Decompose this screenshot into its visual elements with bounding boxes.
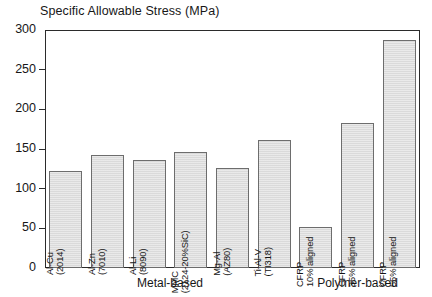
y-axis-tick-label: 300 [15, 22, 36, 36]
bars-container: Al-Cu(2014)Al-Zn(7010)Al-Li(8090)MMC(212… [45, 30, 420, 268]
y-axis-tick-label: 150 [15, 141, 36, 155]
bar: CFRP10% aligned [299, 227, 332, 268]
y-axis-tick-label: 250 [15, 62, 36, 76]
bar-chart: Specific Allowable Stress (MPa) 05010015… [0, 0, 432, 297]
bar-label-line1: Al-Zn [86, 253, 97, 275]
bar-label-line1: Al-Cu [44, 252, 55, 275]
bar: Mg-Al(AZ80) [216, 168, 249, 268]
group-caption-polymer-based: Polymer-based [288, 276, 428, 290]
bar-label-line1: Mg-Al [211, 252, 222, 276]
y-axis-tick-label: 100 [15, 181, 36, 195]
bar-label: Ti-Al-V(TI318) [253, 247, 274, 277]
bar-label: Al-Cu(2014) [45, 249, 66, 276]
y-axis: 050100150200250300 [0, 0, 45, 297]
bar: Al-Li(8090) [133, 160, 166, 268]
bar-label-line2: (TI318) [264, 247, 274, 277]
chart-title: Specific Allowable Stress (MPa) [40, 4, 220, 18]
y-axis-tick-label: 200 [15, 101, 36, 115]
y-axis-tick-label: 0 [29, 260, 36, 274]
bar: Ti-Al-V(TI318) [258, 140, 291, 268]
bar-label-line2: (2014) [55, 249, 65, 276]
bar-label: Mg-Al(AZ80) [212, 248, 233, 276]
bar: MMC(2124-20%SiC) [174, 152, 207, 268]
bar: Al-Cu(2014) [49, 171, 82, 268]
bar-label-line2: (8090) [139, 249, 149, 276]
bar-label-line2: (AZ80) [222, 248, 232, 276]
bar-label: Al-Li(8090) [128, 249, 149, 276]
bar-label-line2: (7010) [97, 249, 107, 276]
y-axis-tick-label: 50 [22, 220, 36, 234]
bar: CFRP55% aligned [383, 40, 416, 268]
bar-label: Al-Zn(7010) [87, 249, 108, 276]
bar: CFRP35% aligned [341, 123, 374, 268]
bar: Al-Zn(7010) [91, 155, 124, 268]
group-caption-metal-based: Metal-based [100, 276, 240, 290]
